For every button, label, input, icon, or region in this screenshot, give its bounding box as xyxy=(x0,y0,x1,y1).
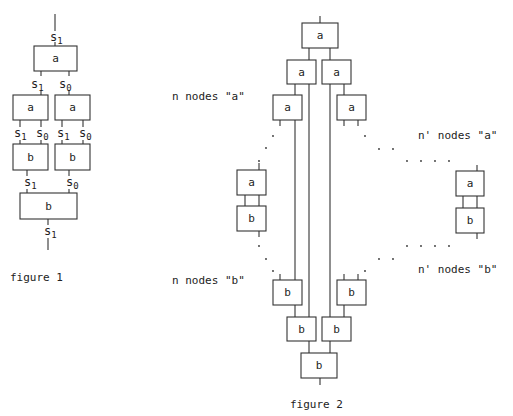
f2-dot xyxy=(272,270,274,272)
f1-signal-top-in: s1 xyxy=(50,30,63,46)
f2-dot xyxy=(448,160,450,162)
f2-dot xyxy=(406,160,408,162)
f2-node-label: b xyxy=(284,286,291,299)
f2-node-label: a xyxy=(248,176,255,189)
f1-signal-bottom-out: s1 xyxy=(44,224,57,240)
f2-dot xyxy=(378,258,380,260)
f2-node-label: a xyxy=(333,66,340,79)
f1-signal: s1 xyxy=(24,175,37,191)
figure-1: s1 a s1 s0 a a s1 s0 s1 s0 b b xyxy=(10,14,92,284)
f2-node-label: b xyxy=(316,359,323,372)
f2-node-label: a xyxy=(284,101,291,114)
f1-node-label: b xyxy=(27,151,34,164)
f2-dot xyxy=(420,160,422,162)
f1-node-label: a xyxy=(27,101,34,114)
f2-node-label: b xyxy=(333,323,340,336)
f1-signal: s0 xyxy=(66,175,79,191)
f2-dot xyxy=(378,148,380,150)
f2-label-n-nodes-b: n nodes "b" xyxy=(172,274,245,287)
f2-node-label: b xyxy=(248,212,255,225)
f1-node-label: a xyxy=(52,52,59,65)
f2-dot xyxy=(364,270,366,272)
f2-node-label: b xyxy=(348,286,355,299)
f2-dot xyxy=(434,160,436,162)
f2-node-label: a xyxy=(317,29,324,42)
f2-dot xyxy=(258,160,260,162)
f2-dot xyxy=(392,148,394,150)
f1-node-label: b xyxy=(69,151,76,164)
f2-dot xyxy=(265,147,267,149)
f1-signal: s1 xyxy=(31,77,44,93)
f1-node-label: b xyxy=(45,200,52,213)
f2-node-label: a xyxy=(467,177,474,190)
f2-dot xyxy=(272,135,274,137)
f2-dot xyxy=(434,245,436,247)
f2-node-label: a xyxy=(298,66,305,79)
figure-2: a a a a a a b xyxy=(172,16,497,411)
f2-dot xyxy=(258,245,260,247)
f1-signal: s0 xyxy=(36,126,49,142)
figure-2-caption: figure 2 xyxy=(290,398,343,411)
f1-signal: s1 xyxy=(14,126,27,142)
diagram-canvas: s1 a s1 s0 a a s1 s0 s1 s0 b b xyxy=(0,0,513,416)
f1-signal: s0 xyxy=(59,77,72,93)
f2-dot xyxy=(448,245,450,247)
f2-dot xyxy=(265,258,267,260)
f1-signal: s0 xyxy=(79,126,92,142)
f2-label-n-nodes-a: n nodes "a" xyxy=(172,90,245,103)
f2-dot xyxy=(392,258,394,260)
f2-dot xyxy=(420,245,422,247)
f2-label-nprime-nodes-b: n' nodes "b" xyxy=(418,263,497,276)
diagram-svg: s1 a s1 s0 a a s1 s0 s1 s0 b b xyxy=(0,0,513,416)
f2-node-label: b xyxy=(467,214,474,227)
f2-dot xyxy=(364,135,366,137)
f2-node-label: a xyxy=(348,101,355,114)
f2-dot xyxy=(406,245,408,247)
f1-node-label: a xyxy=(69,101,76,114)
figure-1-caption: figure 1 xyxy=(10,271,63,284)
f2-node-label: b xyxy=(298,323,305,336)
f2-label-nprime-nodes-a: n' nodes "a" xyxy=(418,129,497,142)
f1-signal: s1 xyxy=(57,126,70,142)
